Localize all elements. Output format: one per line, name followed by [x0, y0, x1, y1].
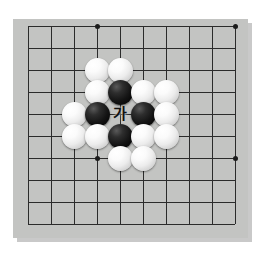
screenshot-root: 가 [0, 0, 258, 255]
go-board[interactable]: 가 [13, 19, 248, 238]
label-layer: 가 [13, 19, 248, 238]
stone-marker-label: 가 [113, 107, 127, 122]
